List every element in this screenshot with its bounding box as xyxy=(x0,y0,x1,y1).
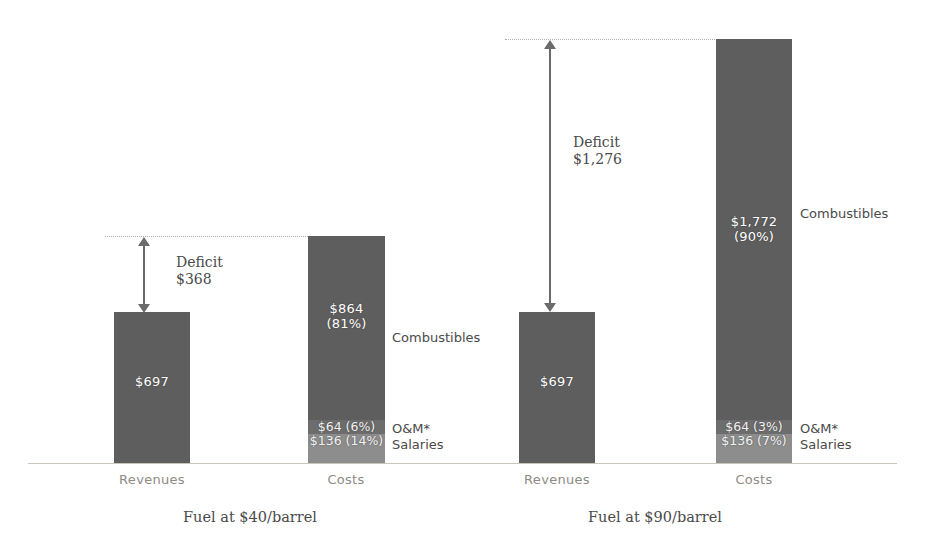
arrow-shaft xyxy=(549,46,551,306)
bar-value-right-revenues: $697 xyxy=(519,374,595,389)
category-label-left-costs: Costs xyxy=(298,472,394,487)
bar-value-left-revenues: $697 xyxy=(114,374,190,389)
side-label-right-om: O&M* xyxy=(800,421,838,437)
side-label-left-salaries: Salaries xyxy=(392,437,444,453)
segment-left-om[interactable]: $64 (6%) xyxy=(308,420,385,434)
segment-value-left-salaries: $136 (14%) xyxy=(302,434,391,448)
side-label-left-combustibles: Combustibles xyxy=(392,330,480,346)
segment-value-right-salaries: $136 (7%) xyxy=(710,434,798,448)
side-label-right-salaries: Salaries xyxy=(800,437,852,453)
side-label-left-om: O&M* xyxy=(392,421,430,437)
segment-value-left-om: $64 (6%) xyxy=(302,420,391,434)
x-axis-baseline xyxy=(28,463,897,464)
segment-percent-left-combustibles: (81%) xyxy=(308,316,385,331)
segment-right-combustibles[interactable]: $1,772 (90%) xyxy=(716,39,792,420)
segment-value-left-combustibles: $864 xyxy=(308,301,385,316)
side-label-right-combustibles: Combustibles xyxy=(800,206,888,222)
reference-line-left xyxy=(105,236,310,237)
deficit-value-right: $1,276 xyxy=(573,151,622,168)
deficit-value-left: $368 xyxy=(176,271,223,288)
panel-caption-left: Fuel at $40/barrel xyxy=(130,509,370,525)
segment-left-combustibles[interactable]: $864 (81%) xyxy=(308,236,385,420)
segment-right-om[interactable]: $64 (3%) xyxy=(716,420,792,434)
deficit-arrow-left xyxy=(137,237,151,313)
deficit-title-right: Deficit xyxy=(573,134,622,151)
arrow-head-down-icon xyxy=(544,303,556,312)
segment-right-salaries[interactable]: $136 (7%) xyxy=(716,434,792,463)
category-label-right-costs: Costs xyxy=(706,472,802,487)
segment-value-right-combustibles: $1,772 xyxy=(716,214,792,229)
deficit-title-left: Deficit xyxy=(176,254,223,271)
bar-right-revenues[interactable]: $697 xyxy=(519,312,595,463)
segment-percent-right-combustibles: (90%) xyxy=(716,229,792,244)
deficit-label-right: Deficit $1,276 xyxy=(573,134,622,168)
bar-right-costs[interactable]: $1,772 (90%) $64 (3%) $136 (7%) xyxy=(716,39,792,463)
panel-caption-right: Fuel at $90/barrel xyxy=(535,509,775,525)
bar-left-revenues[interactable]: $697 xyxy=(114,312,190,463)
bar-left-costs[interactable]: $864 (81%) $64 (6%) $136 (14%) xyxy=(308,236,385,463)
segment-value-right-om: $64 (3%) xyxy=(710,420,798,434)
deficit-label-left: Deficit $368 xyxy=(176,254,223,288)
category-label-left-revenues: Revenues xyxy=(104,472,200,487)
category-label-right-revenues: Revenues xyxy=(509,472,605,487)
segment-left-salaries[interactable]: $136 (14%) xyxy=(308,434,385,463)
chart-canvas: Deficit $368 $697 $864 (81%) $64 (6%) $1… xyxy=(0,0,925,533)
reference-line-right xyxy=(505,39,717,40)
arrow-shaft xyxy=(143,243,145,307)
deficit-arrow-right xyxy=(543,40,557,312)
